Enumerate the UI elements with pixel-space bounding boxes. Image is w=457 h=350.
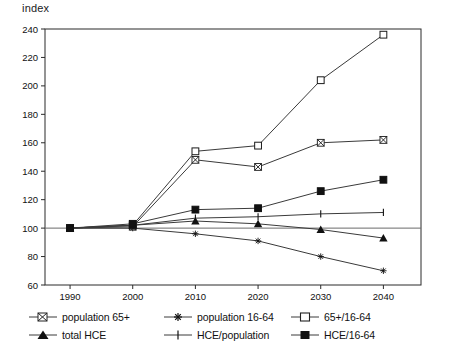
y-axis-tick-label: 160 — [22, 137, 38, 148]
y-axis-tick-label: 80 — [27, 251, 38, 262]
y-axis-tick-label: 60 — [27, 280, 38, 291]
plus-marker-icon — [163, 328, 193, 342]
legend-label-hce-per-population: HCE/population — [197, 329, 269, 341]
legend-item-population-16-64: population 16-64 — [163, 308, 274, 325]
legend-label-population-16-64: population 16-64 — [197, 311, 274, 323]
plot-frame — [45, 29, 421, 285]
legend-label-population-65-plus: population 65+ — [62, 311, 130, 323]
filled-square-marker-icon — [290, 328, 320, 342]
data-point-marker — [192, 148, 199, 155]
legend-item-hce-per-16-64: HCE/16-64 — [290, 326, 375, 343]
series-65-16-64 — [67, 31, 387, 231]
data-point-marker — [255, 205, 262, 212]
series-line — [70, 140, 383, 228]
series-hce-16-64 — [67, 176, 387, 231]
asterisk-marker-icon — [163, 310, 193, 324]
x-axis-tick-label: 2020 — [247, 291, 268, 302]
series-line — [70, 212, 383, 228]
chart-figure: index 6080100120140160180200220240199020… — [0, 0, 457, 350]
legend-label-hce-per-16-64: HCE/16-64 — [324, 329, 375, 341]
y-axis-tick-label: 120 — [22, 194, 38, 205]
y-axis-tick-label: 220 — [22, 52, 38, 63]
data-point-marker — [380, 31, 387, 38]
line-chart-plot: 6080100120140160180200220240199020002010… — [0, 0, 457, 350]
data-point-marker — [255, 142, 262, 149]
filled-triangle-marker-icon — [28, 328, 58, 342]
bowtie-marker-icon — [28, 310, 58, 324]
data-point-marker — [317, 188, 324, 195]
legend-label-65-plus-over-16-64: 65+/16-64 — [324, 311, 371, 323]
data-point-marker — [317, 77, 324, 84]
x-axis-tick-label: 2030 — [310, 291, 331, 302]
legend-item-total-hce: total HCE — [28, 326, 106, 343]
legend-item-population-65-plus: population 65+ — [28, 308, 130, 325]
x-axis-tick-label: 2010 — [185, 291, 206, 302]
legend-row-1: population 65+ population 16-64 — [28, 308, 428, 325]
data-point-marker — [67, 225, 74, 232]
legend-item-65-plus-over-16-64: 65+/16-64 — [290, 308, 371, 325]
legend-label-total-hce: total HCE — [62, 329, 106, 341]
legend-row-2: total HCE HCE/population HCE/16-64 — [28, 326, 428, 343]
data-point-marker — [192, 206, 199, 213]
series-line — [70, 180, 383, 228]
legend-item-hce-per-population: HCE/population — [163, 326, 269, 343]
series-line — [70, 221, 383, 238]
x-axis-tick-label: 2000 — [122, 291, 143, 302]
data-point-marker — [380, 176, 387, 183]
series-line — [70, 35, 383, 228]
x-axis-tick-label: 1990 — [59, 291, 80, 302]
y-axis-tick-label: 200 — [22, 80, 38, 91]
y-axis-tick-label: 100 — [22, 223, 38, 234]
y-axis-tick-label: 140 — [22, 166, 38, 177]
chart-legend: population 65+ population 16-64 — [28, 306, 428, 346]
x-axis-tick-label: 2040 — [373, 291, 394, 302]
data-point-marker — [129, 220, 136, 227]
series-line — [70, 228, 383, 271]
y-axis-tick-label: 180 — [22, 109, 38, 120]
open-square-marker-icon — [290, 310, 320, 324]
y-axis-tick-label: 240 — [22, 24, 38, 35]
